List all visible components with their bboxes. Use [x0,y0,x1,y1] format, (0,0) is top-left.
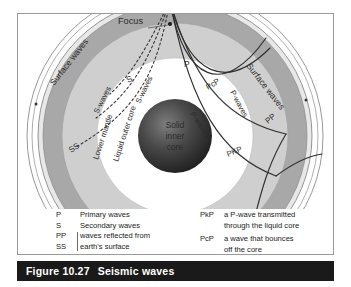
legend-text-pcp-line1: a wave that bounces [224,234,294,243]
earth-cross-section-svg: Focus Surface waves Surface waves Lower … [18,14,333,209]
legend-row-p: P Primary waves [56,210,150,221]
legend-text-s: Secondary waves [80,221,140,232]
legend-text-pkp-line1: a P-wave transmitted [224,210,295,219]
legend-key-p: P [56,210,80,221]
legend-row-pp: PP waves reflected from [56,231,150,242]
solid-inner-core-label-line3: core [167,142,184,152]
legend-text-pkp-line2: through the liquid core [224,221,299,230]
solid-inner-core-label-line1: Solid [166,120,185,130]
figure-title: Seismic waves [98,265,175,277]
figure-container: Focus Surface waves Surface waves Lower … [0,0,351,287]
surface-wave-endpoint-right [305,99,308,102]
legend-row-pkp: PkP a P-wave transmitted through the liq… [200,210,299,231]
legend-bracket [77,232,78,251]
legend-key-pkp: PkP [200,210,224,221]
legend-text-pcp: a wave that bounces off the core [224,234,294,255]
legend-row-pp-ss: PP waves reflected from SS earth's surfa… [56,231,150,252]
focus-label: Focus [118,16,143,26]
legend-text-pcp-line2: off the core [224,245,262,254]
legend-text-pp-line1: waves reflected from [80,231,150,242]
legend-text-ss-line2: earth's surface [80,242,130,253]
legend-text-pkp: a P-wave transmitted through the liquid … [224,210,299,231]
legend-row-ss: SS earth's surface [56,242,150,253]
p-label: P [184,59,190,69]
legend-column-right: PkP a P-wave transmitted through the liq… [200,210,299,255]
legend-column-left: P Primary waves S Secondary waves PP wav… [56,210,150,252]
surface-wave-endpoint-left [35,103,38,106]
figure-caption-bar: Figure 10.27 Seismic waves [17,261,334,281]
legend-row-s: S Secondary waves [56,221,150,232]
figure-frame: Focus Surface waves Surface waves Lower … [17,13,334,255]
legend-text-p: Primary waves [80,210,130,221]
solid-inner-core-label-line2: inner [166,131,185,141]
legend: P Primary waves S Secondary waves PP wav… [18,210,333,254]
focus-point [168,22,172,26]
legend-key-pcp: PcP [200,234,224,245]
legend-row-pcp: PcP a wave that bounces off the core [200,234,299,255]
legend-key-s: S [56,221,80,232]
seismic-cross-section-diagram: Focus Surface waves Surface waves Lower … [18,14,333,209]
figure-number: Figure 10.27 [26,265,90,277]
